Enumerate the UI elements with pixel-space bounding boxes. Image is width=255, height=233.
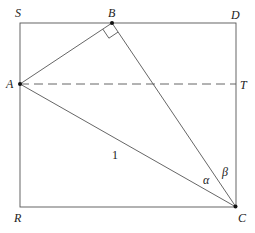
label-C: C bbox=[238, 211, 247, 225]
right-angle-marker bbox=[103, 29, 118, 38]
angle-alpha-label: α bbox=[203, 173, 210, 187]
segment-BC bbox=[112, 23, 236, 207]
label-R: R bbox=[13, 211, 22, 225]
point-A-dot bbox=[18, 82, 22, 86]
label-D: D bbox=[230, 8, 240, 22]
point-C-dot bbox=[234, 205, 238, 209]
label-A: A bbox=[5, 77, 14, 91]
label-B: B bbox=[108, 6, 116, 20]
angle-beta-label: β bbox=[221, 165, 228, 179]
segment-AC bbox=[20, 84, 236, 207]
point-B-dot bbox=[110, 21, 114, 25]
length-label-AC: 1 bbox=[112, 148, 118, 162]
label-T: T bbox=[240, 78, 248, 92]
segment-AB bbox=[20, 23, 112, 84]
geometry-diagram: S B D A T R C 1 α β bbox=[0, 0, 255, 233]
label-S: S bbox=[15, 6, 21, 20]
